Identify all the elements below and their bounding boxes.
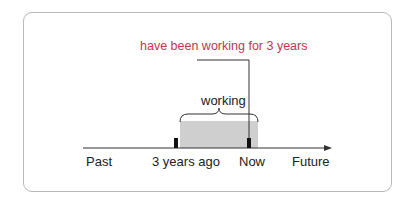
label-past: Past [86,155,112,168]
span-label: working [201,94,246,107]
label-3-years-ago: 3 years ago [152,155,220,168]
annotation-label: have been working for 3 years [140,40,307,53]
working-brace [180,108,258,122]
tick-3-years-ago [174,138,178,148]
tick-now [247,138,251,148]
working-span [180,121,258,148]
axis-arrow-icon [324,145,332,151]
label-now: Now [239,155,265,168]
label-future: Future [292,155,330,168]
